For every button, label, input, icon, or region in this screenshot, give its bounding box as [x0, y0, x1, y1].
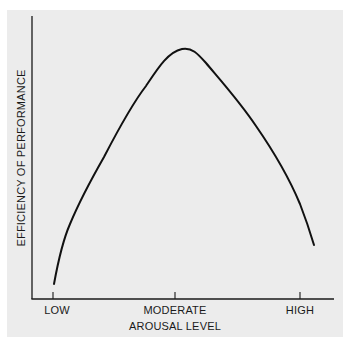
- chart-figure: LOW MODERATE HIGH AROUSAL LEVEL EFFICIEN…: [0, 0, 351, 343]
- y-axis-title: EFFICIENCY OF PERFORMANCE: [15, 69, 27, 246]
- x-tick-label-low: LOW: [44, 304, 70, 316]
- x-axis-title: AROUSAL LEVEL: [129, 320, 221, 332]
- x-tick-label-moderate: MODERATE: [143, 304, 206, 316]
- performance-curve: [54, 49, 314, 284]
- x-tick-label-high: HIGH: [286, 304, 314, 316]
- plot-area: [0, 0, 351, 343]
